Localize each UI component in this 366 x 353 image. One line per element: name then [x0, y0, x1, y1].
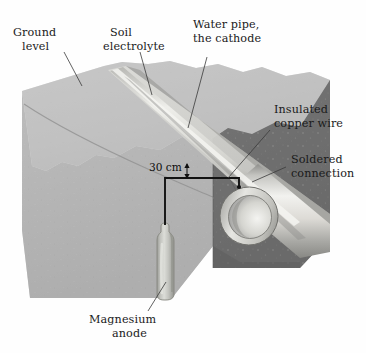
label-soldered-connection-line1: Soldered [291, 153, 343, 166]
label-water-pipe-line1: Water pipe, [193, 18, 259, 31]
diagram-canvas: 30 cm Ground level Soil electrolyte Wate… [0, 0, 366, 353]
dimension-label: 30 cm [149, 161, 182, 173]
magnesium-anode-bottle [157, 223, 174, 300]
label-water-pipe-line2: the cathode [193, 32, 261, 45]
anode-highlight [161, 244, 162, 293]
label-soil-electrolyte-line2: electrolyte [103, 40, 165, 53]
label-magnesium-anode-line1: Magnesium [89, 313, 156, 326]
soil-block [22, 61, 330, 298]
soldered-connection-point [237, 185, 241, 189]
label-ground-level-line1: Ground [13, 26, 56, 39]
cathodic-protection-figure: 30 cm Ground level Soil electrolyte Wate… [0, 0, 366, 353]
label-ground-level-line2: level [22, 40, 50, 53]
label-magnesium-anode-line2: anode [112, 327, 147, 340]
label-insulated-wire-line1: Insulated [274, 103, 328, 116]
label-soil-electrolyte-line1: Soil [110, 26, 132, 39]
label-soldered-connection-line2: connection [291, 167, 354, 180]
label-insulated-wire-line2: copper wire [274, 117, 343, 130]
